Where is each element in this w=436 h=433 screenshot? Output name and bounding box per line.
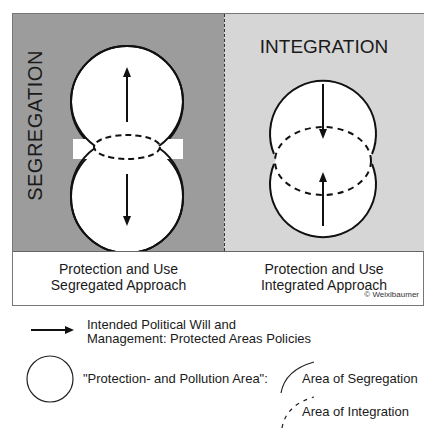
integration-title: INTEGRATION bbox=[224, 36, 424, 58]
legend-integration-label: Area of Integration bbox=[302, 405, 409, 419]
legend-circle-label: "Protection- and Pollution Area": bbox=[83, 372, 268, 386]
caption-separator bbox=[13, 251, 423, 252]
legend-arrow-label: Intended Political Will and Management: … bbox=[87, 318, 311, 346]
integration-caption: Protection and Use Integrated Approach bbox=[224, 261, 424, 293]
segregation-caption: Protection and Use Segregated Approach bbox=[13, 261, 224, 293]
caption-line: Protection and Use bbox=[224, 261, 424, 277]
copyright-note: © Weixlbaumer bbox=[364, 290, 419, 299]
legend-circle-icon bbox=[27, 356, 73, 402]
caption-line: Segregated Approach bbox=[13, 277, 224, 293]
caption-line: Protection and Use bbox=[13, 261, 224, 277]
diagram-frame: SEGREGATION INTEGRATION Protection and U… bbox=[12, 13, 424, 306]
segregation-title: SEGREGATION bbox=[24, 46, 47, 206]
legend-segregation-label: Area of Segregation bbox=[302, 372, 418, 386]
